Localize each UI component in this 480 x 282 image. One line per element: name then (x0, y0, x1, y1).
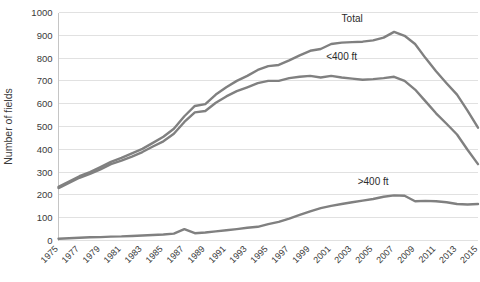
y-axis-tick-labels: 01002003004005006007008009001000 (31, 7, 52, 246)
x-tick-label: 1989 (185, 244, 206, 265)
data-series (59, 32, 479, 239)
y-axis-title: Number of fields (2, 88, 14, 164)
x-tick-label: 2013 (437, 244, 458, 265)
x-tick-label: 1981 (102, 244, 123, 265)
gridlines (59, 13, 479, 241)
x-tick-label: 2007 (374, 244, 395, 265)
y-tick-label: 200 (37, 189, 53, 200)
line-chart: 01002003004005006007008009001000 1975197… (0, 0, 480, 282)
x-tick-label: 1999 (290, 244, 311, 265)
y-tick-label: 500 (37, 121, 53, 132)
x-tick-label: 1985 (144, 244, 165, 265)
x-tick-label: 1987 (165, 244, 186, 265)
series-line-1 (59, 76, 479, 188)
x-tick-label: 1983 (123, 244, 144, 265)
x-tick-label: 1975 (39, 244, 60, 265)
x-tick-label: 1991 (206, 244, 227, 265)
series-label-0: Total (342, 13, 363, 24)
series-label-2: >400 ft (358, 176, 389, 187)
x-tick-label: 2015 (458, 244, 479, 265)
y-tick-label: 900 (37, 30, 53, 41)
y-tick-label: 400 (37, 144, 53, 155)
series-label-1: <400 ft (326, 51, 357, 62)
chart-container: 01002003004005006007008009001000 1975197… (0, 0, 480, 282)
x-tick-label: 1979 (81, 244, 102, 265)
x-tick-label: 2001 (311, 244, 332, 265)
series-line-0 (59, 32, 479, 187)
y-tick-label: 800 (37, 53, 53, 64)
x-axis-tick-labels: 1975197719791981198319851987198919911993… (39, 244, 480, 265)
x-tick-label: 2005 (353, 244, 374, 265)
x-tick-label: 1993 (227, 244, 248, 265)
y-axis-title-text: Number of fields (2, 88, 14, 164)
x-tick-label: 1997 (269, 244, 290, 265)
x-tick-label: 2009 (395, 244, 416, 265)
y-tick-label: 600 (37, 98, 53, 109)
x-tick-label: 1977 (60, 244, 81, 265)
x-tick-label: 2011 (417, 244, 438, 265)
y-tick-label: 100 (37, 212, 53, 223)
x-tick-label: 1995 (248, 244, 269, 265)
y-tick-label: 1000 (31, 7, 52, 18)
y-tick-label: 700 (37, 75, 53, 86)
y-tick-label: 300 (37, 167, 53, 178)
x-tick-label: 2003 (332, 244, 353, 265)
series-line-2 (59, 195, 479, 238)
